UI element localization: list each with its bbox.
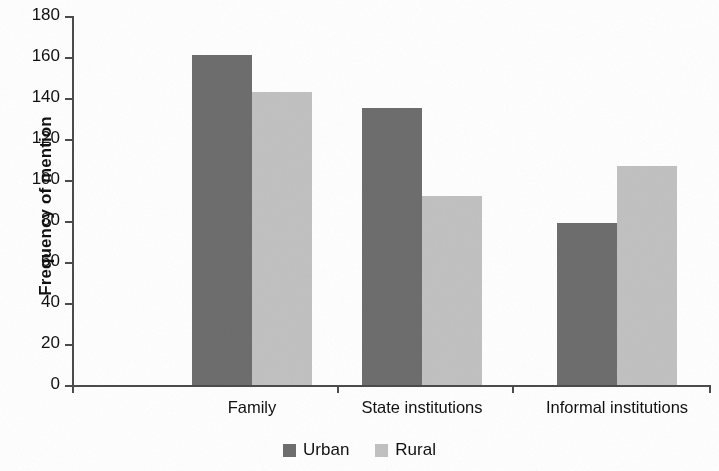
y-axis-tick: 80 — [65, 221, 72, 223]
x-axis-line — [72, 385, 709, 387]
y-axis-tick: 0 — [65, 385, 72, 387]
y-axis-tick-label: 180 — [10, 5, 60, 25]
y-axis-tick-label: 100 — [10, 169, 60, 189]
x-axis-tick — [709, 385, 711, 393]
x-axis-category-label: Family — [228, 398, 277, 417]
bar-rural-2 — [617, 166, 677, 385]
y-axis-tick-label: 0 — [10, 374, 60, 394]
legend-swatch-rural — [375, 444, 388, 457]
bar-chart: Frequency of mention 0204060801001201401… — [0, 0, 719, 471]
x-axis-category-label: State institutions — [361, 398, 482, 417]
y-axis-tick: 100 — [65, 180, 72, 182]
legend-label: Urban — [303, 440, 349, 460]
y-axis-tick-label: 60 — [10, 251, 60, 271]
y-axis-tick-label: 20 — [10, 333, 60, 353]
y-axis-tick-label: 40 — [10, 292, 60, 312]
x-axis-tick — [512, 385, 514, 393]
y-axis-tick-label: 80 — [10, 210, 60, 230]
bar-rural-1 — [422, 196, 482, 385]
bar-urban-2 — [557, 223, 617, 385]
chart-legend: UrbanRural — [0, 440, 719, 460]
y-axis-tick: 140 — [65, 98, 72, 100]
y-axis-tick: 40 — [65, 303, 72, 305]
legend-label: Rural — [395, 440, 436, 460]
bar-urban-1 — [362, 108, 422, 385]
y-axis-tick-label: 160 — [10, 46, 60, 66]
y-axis-line — [72, 16, 74, 385]
legend-item-urban: Urban — [283, 440, 349, 460]
legend-item-rural: Rural — [375, 440, 436, 460]
bar-urban-0 — [192, 55, 252, 385]
x-axis-tick — [72, 385, 74, 393]
y-axis-tick: 120 — [65, 139, 72, 141]
plot-area: 020406080100120140160180 FamilyState ins… — [72, 16, 709, 385]
y-axis-tick: 60 — [65, 262, 72, 264]
bar-rural-0 — [252, 92, 312, 385]
y-axis-tick-label: 140 — [10, 87, 60, 107]
y-axis-tick-label: 120 — [10, 128, 60, 148]
legend-swatch-urban — [283, 444, 296, 457]
x-axis-category-label: Informal institutions — [546, 398, 688, 417]
y-axis-tick: 20 — [65, 344, 72, 346]
y-axis-tick: 160 — [65, 57, 72, 59]
x-axis-tick — [337, 385, 339, 393]
y-axis-tick: 180 — [65, 16, 72, 18]
